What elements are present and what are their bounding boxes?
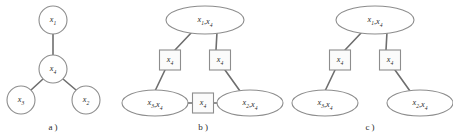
panel-caption-b: b )	[198, 122, 208, 132]
cluster-x1-x4[interactable]: x1,x4	[336, 6, 414, 34]
diagram-canvas: x1x4x3x2a )x1,x4x3,x4x2,x4x4x4x4b )x1,x4…	[0, 0, 453, 140]
node-x4[interactable]: x4	[39, 55, 67, 83]
edge-left-sep-to-x3x4	[325, 70, 335, 91]
cluster-x2-x4[interactable]: x2,x4	[217, 90, 283, 116]
edge-x4-x3	[31, 79, 43, 90]
edge-left-sep-to-x3x4	[155, 70, 165, 91]
edge-top-to-right-sep	[386, 32, 387, 50]
figure-container: x1x4x3x2a )x1,x4x3,x4x2,x4x4x4x4b )x1,x4…	[0, 0, 453, 140]
cluster-x3-x4[interactable]: x3,x4	[122, 90, 188, 116]
edge-top-to-left-sep	[175, 32, 192, 50]
panel-caption-c: c )	[365, 122, 374, 132]
edge-x4-x2	[63, 79, 76, 90]
panel-b: x1,x4x3,x4x2,x4x4x4x4b )	[122, 6, 283, 132]
cluster-x2-x4[interactable]: x2,x4	[387, 90, 453, 116]
node-x3[interactable]: x3	[7, 86, 35, 114]
edge-top-to-left-sep	[345, 32, 362, 50]
separator-right-x4[interactable]: x4	[380, 50, 401, 70]
node-x2[interactable]: x2	[72, 86, 100, 114]
node-x1[interactable]: x1	[39, 6, 67, 34]
cluster-x3-x4[interactable]: x3,x4	[292, 90, 358, 116]
panel-c: x1,x4x3,x4x2,x4x4x4c )	[292, 6, 453, 132]
separator-bottom-x4[interactable]: x4	[193, 93, 214, 113]
edge-right-sep-to-x2x4	[225, 70, 240, 91]
separator-right-x4[interactable]: x4	[210, 50, 231, 70]
edge-right-sep-to-x2x4	[395, 70, 410, 91]
cluster-x1-x4[interactable]: x1,x4	[166, 6, 244, 34]
separator-left-x4[interactable]: x4	[330, 50, 351, 70]
edge-top-to-right-sep	[216, 32, 217, 50]
panel-a: x1x4x3x2a )	[7, 6, 100, 132]
separator-left-x4[interactable]: x4	[160, 50, 181, 70]
panel-caption-a: a )	[48, 122, 57, 132]
